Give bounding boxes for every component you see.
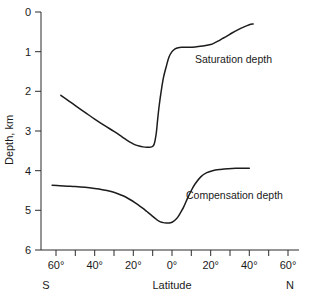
y-tick-label: 2	[25, 85, 31, 97]
depth-latitude-line-chart: 0 1 2 3 4 5 6 60° 40° 2	[0, 0, 312, 293]
saturation-depth-curve	[61, 24, 253, 147]
x-tick-label: 60°	[280, 259, 297, 271]
x-tick-label: 40°	[241, 259, 258, 271]
y-tick-label: 3	[25, 125, 31, 137]
x-tick-label: 60°	[48, 259, 65, 271]
y-tick-label: 4	[25, 165, 31, 177]
y-tick-label: 5	[25, 204, 31, 216]
south-hemisphere-label: S	[42, 279, 49, 291]
x-axis-title: Latitude	[152, 279, 191, 291]
x-tick-label: 20°	[202, 259, 219, 271]
saturation-depth-annotation: Saturation depth	[195, 53, 272, 65]
x-axis-ticks	[56, 250, 288, 256]
y-tick-label: 1	[25, 46, 31, 58]
compensation-depth-annotation: Compensation depth	[186, 189, 283, 201]
y-axis-title: Depth, km	[3, 115, 15, 165]
north-hemisphere-label: N	[286, 279, 294, 291]
x-tick-label: 20°	[125, 259, 142, 271]
y-tick-label: 6	[25, 244, 31, 256]
y-axis-ticks	[35, 12, 41, 250]
y-axis-tick-labels: 0 1 2 3 4 5 6	[25, 6, 31, 256]
x-axis-tick-labels: 60° 40° 20° 0° 20° 40° 60°	[48, 259, 297, 271]
chart-figure: 0 1 2 3 4 5 6 60° 40° 2	[0, 0, 312, 293]
x-tick-label: 0°	[167, 259, 178, 271]
x-tick-label: 40°	[86, 259, 103, 271]
y-tick-label: 0	[25, 6, 31, 18]
